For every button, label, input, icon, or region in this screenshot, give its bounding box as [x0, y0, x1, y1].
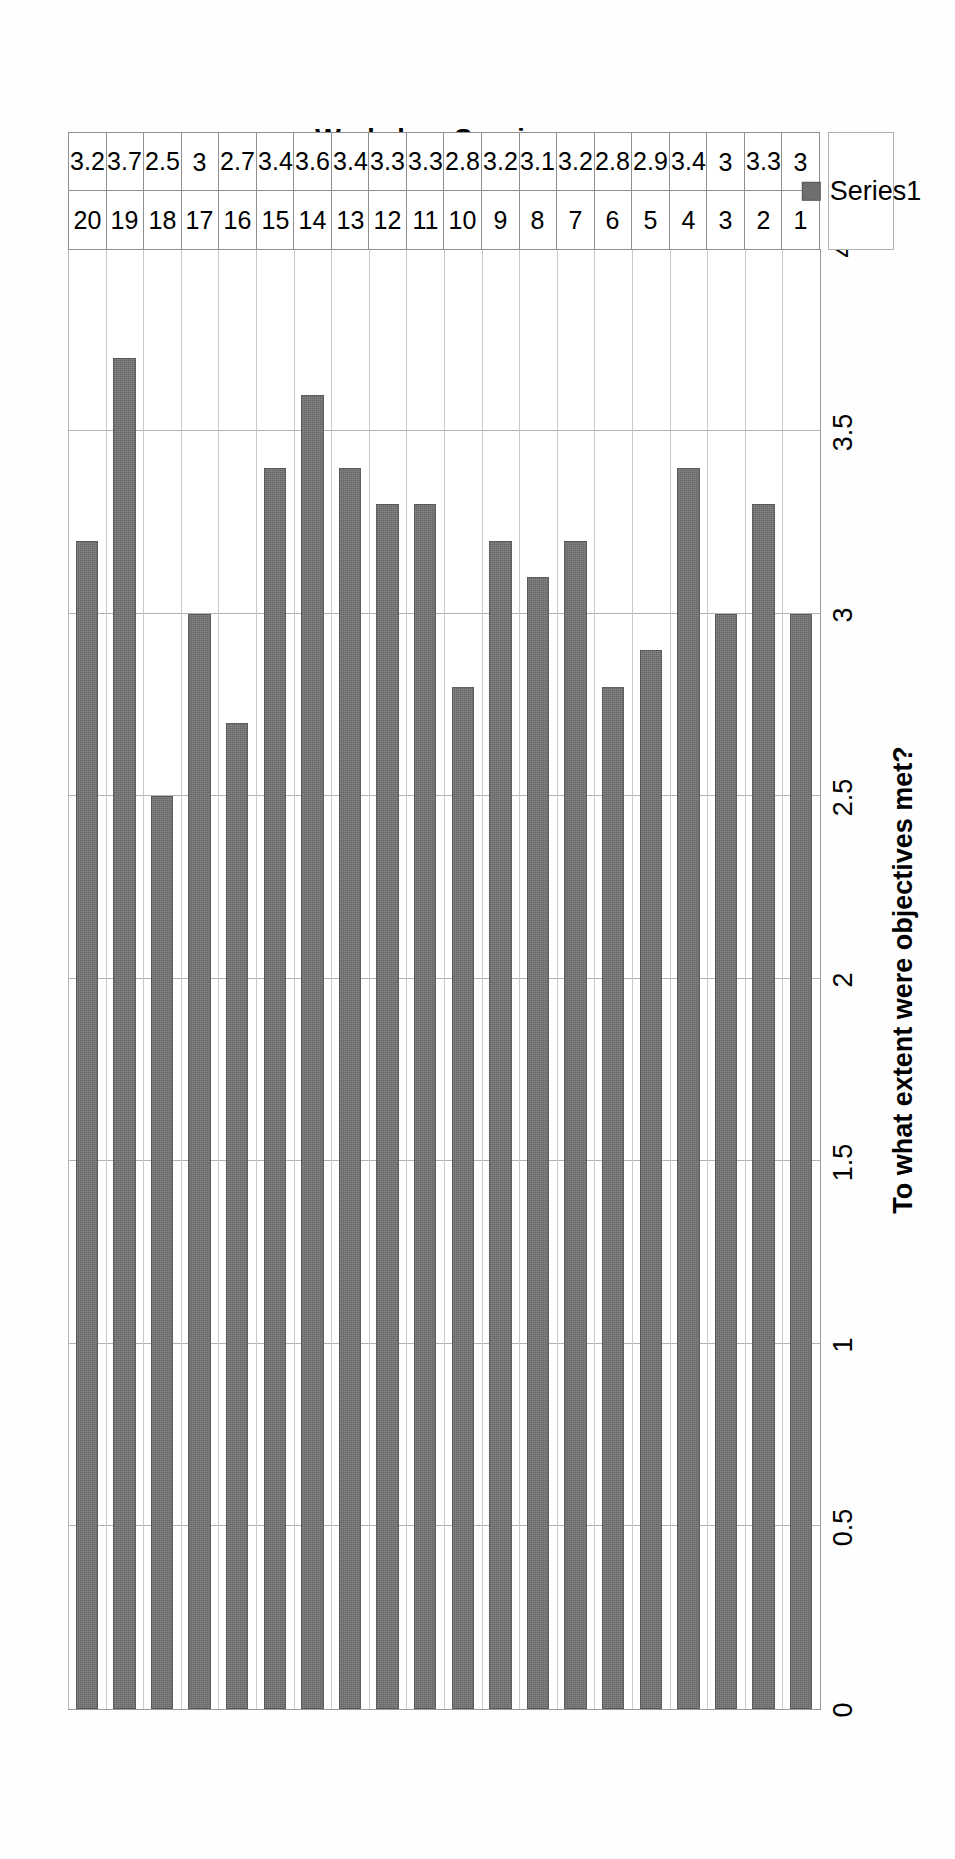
table-row: 153.4 — [256, 133, 294, 249]
table-row: 113.3 — [406, 133, 444, 249]
value-axis-title: To what extent were objectives met? — [888, 250, 919, 1710]
table-cell-category: 7 — [557, 190, 594, 249]
bar — [564, 541, 587, 1709]
table-row: 123.3 — [369, 133, 407, 249]
data-table: 203.2193.7182.5173162.7153.4143.6133.412… — [68, 132, 820, 250]
table-cell-value: 3.4 — [256, 133, 293, 191]
table-cell-category: 6 — [594, 190, 631, 249]
table-cell-category: 2 — [744, 190, 781, 249]
bar — [225, 723, 248, 1709]
bar — [526, 577, 549, 1709]
table-cell-value: 2.8 — [444, 133, 481, 191]
bar — [188, 614, 211, 1709]
table-cell-category: 3 — [707, 190, 744, 249]
table-cell-category: 4 — [669, 190, 706, 249]
bar — [451, 687, 474, 1709]
table-row: 23.3 — [744, 133, 782, 249]
legend-swatch-icon — [801, 181, 820, 200]
table-row: 33 — [707, 133, 745, 249]
table-row: 203.2 — [69, 133, 107, 249]
bar — [677, 468, 700, 1709]
table-row: 52.9 — [632, 133, 670, 249]
table-cell-value: 3.1 — [519, 133, 556, 191]
table-cell-value: 3.2 — [69, 133, 106, 191]
bar — [714, 614, 737, 1709]
bar — [752, 504, 775, 1709]
table-cell-value: 2.7 — [219, 133, 256, 191]
table-cell-category: 20 — [69, 190, 106, 249]
table-cell-category: 12 — [369, 190, 406, 249]
table-row: 62.8 — [594, 133, 632, 249]
table-row: 133.4 — [331, 133, 369, 249]
table-row: 193.7 — [106, 133, 144, 249]
table-cell-value: 2.5 — [144, 133, 181, 191]
bar — [301, 395, 324, 1709]
table-cell-value: 3.3 — [744, 133, 781, 191]
value-axis-tick-label: 3.5 — [828, 413, 859, 451]
value-axis-tick-label: 3 — [828, 607, 859, 622]
table-cell-category: 15 — [256, 190, 293, 249]
table-cell-category: 17 — [181, 190, 218, 249]
value-axis-tick-label: 1 — [828, 1337, 859, 1352]
bar — [376, 504, 399, 1709]
table-cell-category: 8 — [519, 190, 556, 249]
table-cell-category: 13 — [331, 190, 368, 249]
legend: Series1 — [828, 132, 894, 250]
bar — [413, 504, 436, 1709]
bar-series — [68, 249, 820, 1709]
bar — [75, 541, 98, 1709]
value-axis-tick-label: 0 — [828, 1702, 859, 1717]
table-cell-value: 3.2 — [557, 133, 594, 191]
table-cell-category: 11 — [406, 190, 443, 249]
table-row: 93.2 — [482, 133, 520, 249]
table-cell-value: 3 — [181, 133, 218, 191]
bar — [789, 614, 812, 1709]
scanned-page: 00.511.522.533.54 To what extent were ob… — [0, 0, 955, 1859]
table-row: 83.1 — [519, 133, 557, 249]
table-cell-value: 3.7 — [106, 133, 143, 191]
value-axis-ticks: 00.511.522.533.54 — [828, 250, 868, 1710]
table-row: 43.4 — [669, 133, 707, 249]
legend-series-label: Series1 — [829, 175, 921, 206]
bar — [150, 796, 173, 1709]
bar — [113, 358, 136, 1709]
rotated-chart-wrapper: 00.511.522.533.54 To what extent were ob… — [28, 60, 928, 1800]
table-cell-category: 14 — [294, 190, 331, 249]
table-cell-value: 3 — [707, 133, 744, 191]
table-cell-category: 19 — [106, 190, 143, 249]
table-cell-value: 2.9 — [632, 133, 669, 191]
table-cell-value: 3.2 — [482, 133, 519, 191]
table-cell-value: 3.3 — [406, 133, 443, 191]
table-row: 182.5 — [144, 133, 182, 249]
table-row: 102.8 — [444, 133, 482, 249]
bar — [601, 687, 624, 1709]
value-axis-tick-label: 1.5 — [828, 1143, 859, 1181]
table-cell-category: 16 — [219, 190, 256, 249]
table-row: 73.2 — [557, 133, 595, 249]
table-row: 143.6 — [294, 133, 332, 249]
table-cell-value: 3.4 — [669, 133, 706, 191]
bar-chart: 00.511.522.533.54 To what extent were ob… — [28, 60, 928, 1800]
table-cell-category: 18 — [144, 190, 181, 249]
table-cell-value: 3.3 — [369, 133, 406, 191]
table-row: 173 — [181, 133, 219, 249]
table-cell-value: 3.6 — [294, 133, 331, 191]
table-cell-category: 5 — [632, 190, 669, 249]
bar — [489, 541, 512, 1709]
table-cell-category: 10 — [444, 190, 481, 249]
bar — [639, 650, 662, 1709]
table-cell-category: 9 — [482, 190, 519, 249]
plot-area — [68, 249, 821, 1710]
bar — [263, 468, 286, 1709]
table-cell-value: 2.8 — [594, 133, 631, 191]
value-axis-tick-label: 0.5 — [828, 1508, 859, 1546]
legend-entry: Series1 — [801, 175, 921, 206]
bar — [338, 468, 361, 1709]
table-cell-value: 3.4 — [331, 133, 368, 191]
value-axis-tick-label: 2 — [828, 972, 859, 987]
table-row: 162.7 — [219, 133, 257, 249]
value-axis-tick-label: 2.5 — [828, 778, 859, 816]
